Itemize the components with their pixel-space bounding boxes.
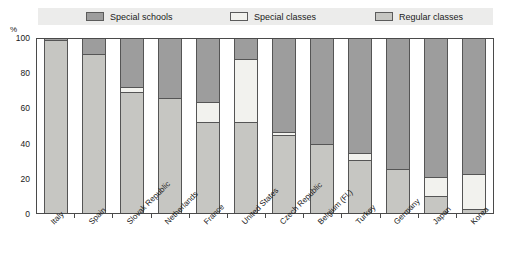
bar-segment-regular-classes bbox=[121, 93, 143, 213]
stacked-bar[interactable] bbox=[44, 39, 68, 213]
bar-segment-special-schools bbox=[273, 39, 295, 133]
bar-segment-regular-classes bbox=[83, 55, 105, 213]
bar-slot bbox=[189, 39, 227, 213]
bar-segment-special-classes bbox=[349, 154, 371, 161]
stacked-bar[interactable] bbox=[234, 39, 258, 213]
legend-label-special-schools: Special schools bbox=[110, 12, 173, 22]
bar-slot bbox=[341, 39, 379, 213]
bar-segment-special-schools bbox=[425, 39, 447, 178]
plot-area bbox=[36, 38, 494, 214]
bar-segment-special-schools bbox=[83, 39, 105, 55]
bar-segment-regular-classes bbox=[45, 41, 67, 213]
bar-slot bbox=[113, 39, 151, 213]
bar-segment-special-schools bbox=[159, 39, 181, 99]
bar-segment-special-schools bbox=[235, 39, 257, 60]
legend-swatch-special-schools bbox=[86, 12, 104, 21]
bar-slot bbox=[455, 39, 493, 213]
bar-slot bbox=[265, 39, 303, 213]
bar-segment-special-schools bbox=[121, 39, 143, 88]
bar-slot bbox=[37, 39, 75, 213]
bar-segment-special-schools bbox=[197, 39, 219, 103]
bar-slot bbox=[379, 39, 417, 213]
legend-label-special-classes: Special classes bbox=[254, 12, 316, 22]
bar-group bbox=[37, 39, 493, 213]
legend-item-special-classes: Special classes bbox=[230, 12, 316, 22]
x-axis-labels: ItalySpainSlovak RepublicNetherlandsFran… bbox=[36, 218, 494, 267]
bar-slot bbox=[417, 39, 455, 213]
legend-swatch-special-classes bbox=[230, 12, 248, 21]
bar-segment-special-schools bbox=[463, 39, 485, 175]
legend-swatch-regular-classes bbox=[375, 12, 393, 21]
stacked-bar[interactable] bbox=[120, 39, 144, 213]
stacked-bar[interactable] bbox=[462, 39, 486, 213]
legend-label-regular-classes: Regular classes bbox=[399, 12, 463, 22]
stacked-bar[interactable] bbox=[348, 39, 372, 213]
bar-segment-regular-classes bbox=[235, 123, 257, 213]
bar-segment-special-classes bbox=[463, 175, 485, 210]
stacked-bar[interactable] bbox=[424, 39, 448, 213]
stacked-bar[interactable] bbox=[82, 39, 106, 213]
bar-segment-special-schools bbox=[387, 39, 409, 170]
bar-segment-special-classes bbox=[197, 103, 219, 122]
stacked-bar[interactable] bbox=[196, 39, 220, 213]
bar-segment-special-schools bbox=[311, 39, 333, 145]
legend-item-regular-classes: Regular classes bbox=[375, 12, 463, 22]
stacked-bar[interactable] bbox=[386, 39, 410, 213]
chart-legend: Special schools Special classes Regular … bbox=[38, 8, 493, 25]
bar-segment-special-schools bbox=[349, 39, 371, 154]
bar-segment-regular-classes bbox=[159, 99, 181, 213]
bar-segment-regular-classes bbox=[311, 145, 333, 213]
bar-segment-regular-classes bbox=[197, 123, 219, 213]
bar-segment-regular-classes bbox=[273, 136, 295, 213]
bar-slot bbox=[75, 39, 113, 213]
legend-item-special-schools: Special schools bbox=[86, 12, 173, 22]
bar-slot bbox=[227, 39, 265, 213]
bar-segment-special-classes bbox=[425, 178, 447, 197]
bar-segment-special-classes bbox=[235, 60, 257, 123]
